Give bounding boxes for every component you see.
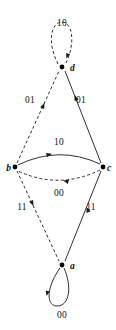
node-a[interactable]: a [60, 261, 75, 271]
node-d[interactable]: d [60, 63, 75, 73]
edge-b-to-c [18, 152, 100, 165]
node-dot [60, 263, 65, 268]
node-label-a: a [70, 261, 75, 271]
edge-path [49, 268, 69, 306]
arrowhead-icon [29, 200, 35, 207]
node-group: d b c a [6, 63, 112, 271]
edge-label-b-to-c: 10 [54, 137, 64, 147]
edge-b-to-d [17, 71, 59, 163]
edge-b-to-a [17, 171, 59, 261]
edge-path [18, 155, 100, 165]
edge-path [18, 170, 100, 180]
edge-path [17, 171, 59, 261]
arrowhead-icon [40, 102, 46, 109]
edge-path [65, 71, 101, 163]
node-dot [60, 65, 65, 70]
arrowhead-icon [46, 152, 53, 158]
edge-a-self-loop [44, 268, 68, 306]
node-dot [13, 165, 18, 170]
edge-label-a-to-c: 11 [86, 202, 96, 212]
edge-label-c-to-d: 01 [76, 95, 86, 105]
state-transition-diagram: 10 01 01 10 00 11 11 00 d b c [0, 0, 116, 330]
edge-label-c-to-b: 00 [54, 188, 64, 198]
edge-path [65, 171, 101, 261]
edge-path [17, 71, 59, 163]
node-label-b: b [6, 163, 11, 173]
node-dot [101, 165, 106, 170]
edge-a-to-c [65, 171, 101, 261]
edge-path [51, 22, 71, 64]
edge-group [17, 22, 101, 306]
arrowhead-icon [62, 178, 68, 184]
edge-label-b-to-d: 01 [25, 95, 35, 105]
node-b[interactable]: b [6, 163, 17, 173]
edge-label-d-self-loop: 10 [57, 18, 67, 28]
edge-d-self-loop [51, 22, 71, 64]
edge-c-to-b [18, 170, 100, 184]
graph-canvas: 10 01 01 10 00 11 11 00 d b c [0, 0, 116, 330]
edge-c-to-d [65, 71, 101, 163]
node-label-c: c [107, 163, 112, 173]
edge-label-a-self-loop: 00 [57, 310, 67, 320]
edge-label-group: 10 01 01 10 00 11 11 00 [17, 18, 96, 320]
node-c[interactable]: c [101, 163, 112, 173]
node-label-d: d [70, 63, 75, 73]
edge-label-b-to-a: 11 [17, 202, 27, 212]
